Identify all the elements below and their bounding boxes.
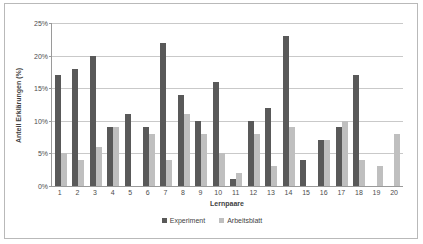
x-axis-tick-label: 16 [315, 189, 333, 196]
legend-swatch-icon [219, 218, 224, 223]
bar-arbeitsblatt-8 [184, 114, 190, 186]
bar-series-group [52, 23, 403, 186]
x-axis-tick-label: 13 [262, 189, 280, 196]
bar-arbeitsblatt-6 [149, 134, 155, 186]
bar-arbeitsblatt-9 [201, 134, 207, 186]
bar-group [87, 23, 105, 186]
legend-item-arbeitsblatt[interactable]: Arbeitsblatt [219, 217, 262, 224]
bar-group [298, 23, 316, 186]
x-axis-tick-label: 1 [51, 189, 69, 196]
y-axis-tick-mark [49, 186, 52, 187]
bar-arbeitsblatt-11 [236, 173, 242, 186]
bar-arbeitsblatt-18 [359, 160, 365, 186]
chart-legend: ExperimentArbeitsblatt [5, 217, 419, 224]
legend-item-experiment[interactable]: Experiment [162, 217, 205, 224]
y-axis-tick-label: 25% [34, 20, 48, 27]
x-axis-tick-label: 5 [121, 189, 139, 196]
bar-arbeitsblatt-3 [96, 147, 102, 186]
plot-area: 0%5%10%15%20%25% [51, 23, 403, 187]
x-axis-tick-label: 4 [104, 189, 122, 196]
x-axis-tick-label: 20 [385, 189, 403, 196]
legend-label: Experiment [170, 217, 205, 224]
x-axis-tick-label: 12 [245, 189, 263, 196]
bar-arbeitsblatt-17 [342, 121, 348, 186]
bar-group [350, 23, 368, 186]
bar-arbeitsblatt-10 [219, 153, 225, 186]
bar-experiment-15 [300, 160, 306, 186]
bar-experiment-5 [125, 114, 131, 186]
bar-arbeitsblatt-19 [377, 166, 383, 186]
x-axis-tick-label: 15 [297, 189, 315, 196]
y-axis-tick-label: 15% [34, 85, 48, 92]
x-axis-title: Lernpaare [51, 200, 403, 207]
bar-group [192, 23, 210, 186]
bar-arbeitsblatt-13 [271, 166, 277, 186]
bar-arbeitsblatt-7 [166, 160, 172, 186]
chart-container: Anteil Erklärungen (%) 0%5%10%15%20%25% … [4, 3, 418, 239]
y-axis-tick-label: 10% [34, 117, 48, 124]
x-axis-tick-label: 17 [333, 189, 351, 196]
x-axis-tick-label: 8 [174, 189, 192, 196]
y-axis-tick-label: 5% [38, 150, 48, 157]
bar-arbeitsblatt-14 [289, 127, 295, 186]
x-axis-tick-label: 14 [280, 189, 298, 196]
bar-arbeitsblatt-12 [254, 134, 260, 186]
legend-swatch-icon [162, 218, 167, 223]
x-axis-tick-label: 9 [192, 189, 210, 196]
bar-group [280, 23, 298, 186]
bar-group [368, 23, 386, 186]
bar-arbeitsblatt-1 [61, 153, 67, 186]
bar-group [333, 23, 351, 186]
bar-group [227, 23, 245, 186]
bar-group [385, 23, 403, 186]
y-axis-tick-label: 0% [38, 183, 48, 190]
bar-group [70, 23, 88, 186]
legend-label: Arbeitsblatt [227, 217, 262, 224]
bar-group [52, 23, 70, 186]
bar-group [157, 23, 175, 186]
x-axis-ticks: 1234567891011121314151617181920 [51, 189, 403, 196]
bar-group [122, 23, 140, 186]
bar-group [105, 23, 123, 186]
bar-group [245, 23, 263, 186]
bar-arbeitsblatt-20 [394, 134, 400, 186]
bar-group [210, 23, 228, 186]
x-axis-tick-label: 7 [157, 189, 175, 196]
bar-group [140, 23, 158, 186]
bar-group [315, 23, 333, 186]
bar-group [175, 23, 193, 186]
x-axis-tick-label: 19 [368, 189, 386, 196]
y-axis-tick-label: 20% [34, 52, 48, 59]
x-axis-tick-label: 3 [86, 189, 104, 196]
x-axis-tick-label: 2 [69, 189, 87, 196]
bar-arbeitsblatt-4 [113, 127, 119, 186]
y-axis-title-text: Anteil Erklärungen (%) [16, 67, 23, 142]
bar-arbeitsblatt-2 [78, 160, 84, 186]
y-axis-title: Anteil Erklärungen (%) [13, 23, 25, 187]
x-axis-tick-label: 6 [139, 189, 157, 196]
x-axis-tick-label: 11 [227, 189, 245, 196]
x-axis-tick-label: 10 [209, 189, 227, 196]
x-axis-tick-label: 18 [350, 189, 368, 196]
bar-group [263, 23, 281, 186]
bar-arbeitsblatt-16 [324, 140, 330, 186]
